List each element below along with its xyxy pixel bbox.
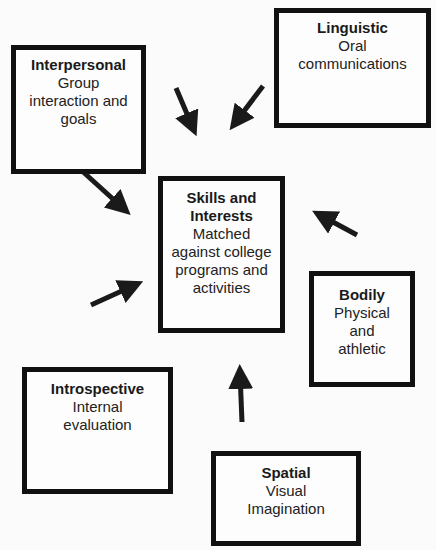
- node-bodily: Bodily Physical and athletic: [309, 271, 415, 387]
- node-interpersonal: Interpersonal Group interaction and goal…: [11, 45, 146, 174]
- node-title: Linguistic: [279, 19, 426, 37]
- arrow-spatial-to-center: [240, 373, 242, 422]
- node-spatial: Spatial Visual Imagination: [211, 451, 361, 546]
- node-title: Bodily: [314, 286, 410, 304]
- node-center-skills-interests: Skills and Interests Matched against col…: [158, 176, 285, 333]
- center-description: Matched against college programs and act…: [163, 225, 280, 297]
- arrow-linguistic-to-center: [235, 86, 263, 123]
- node-description: Visual Imagination: [216, 482, 356, 518]
- arrow-bodily-to-center: [320, 215, 357, 235]
- node-title: Spatial: [216, 464, 356, 482]
- center-title: Skills and Interests: [163, 189, 280, 225]
- node-description: Internal evaluation: [27, 398, 168, 434]
- node-description: Group interaction and goals: [16, 74, 141, 128]
- node-title: Interpersonal: [16, 56, 141, 74]
- node-title: Introspective: [27, 380, 168, 398]
- arrow-introspective-to-center: [91, 285, 135, 305]
- node-description: Physical and athletic: [314, 304, 410, 358]
- node-linguistic: Linguistic Oral communications: [274, 8, 431, 128]
- node-description: Oral communications: [279, 37, 426, 73]
- arrow-interpersonal-to-center-top: [176, 88, 193, 128]
- node-introspective: Introspective Internal evaluation: [22, 367, 173, 494]
